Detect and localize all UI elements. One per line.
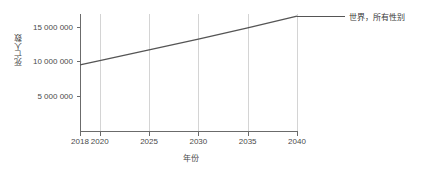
gridline-x-2020: [100, 14, 101, 131]
x-tick-2040: [297, 132, 298, 136]
x-tick-label-2035: 2035: [239, 137, 257, 146]
y-tick-10000000: [77, 61, 81, 62]
line-chart: 死亡人数 5 000 00010 000 00015 000 000 20182…: [0, 0, 424, 176]
gridline-x-2025: [149, 14, 150, 131]
x-tick-label-2040: 2040: [288, 137, 306, 146]
y-axis-line: [80, 14, 81, 132]
x-tick-2035: [248, 132, 249, 136]
x-axis-title: 年份: [0, 152, 382, 163]
y-tick-label-10000000: 10 000 000: [33, 57, 73, 66]
y-tick-5000000: [77, 96, 81, 97]
x-axis-line: [80, 131, 298, 132]
gridline-x-2030: [198, 14, 199, 131]
x-tick-2018: [80, 132, 81, 136]
gridline-x-2035: [248, 14, 249, 131]
series-line-world-all-genders: [80, 16, 297, 65]
y-tick-15000000: [77, 27, 81, 28]
y-tick-label-5000000: 5 000 000: [37, 92, 73, 101]
gridline-x-2040: [297, 14, 298, 131]
x-tick-2025: [149, 132, 150, 136]
x-tick-2030: [198, 132, 199, 136]
y-tick-label-15000000: 15 000 000: [33, 22, 73, 31]
legend-label-world-all-genders: 世界，所有性别: [349, 11, 405, 22]
y-axis-title: 死亡人数: [14, 34, 28, 66]
x-tick-label-2030: 2030: [189, 137, 207, 146]
x-tick-label-2025: 2025: [140, 137, 158, 146]
x-tick-label-2018: 2018: [71, 137, 89, 146]
x-tick-label-2020: 2020: [91, 137, 109, 146]
legend: 世界，所有性别: [297, 11, 405, 22]
x-tick-2020: [100, 132, 101, 136]
legend-swatch-world-all-genders: [297, 16, 345, 17]
